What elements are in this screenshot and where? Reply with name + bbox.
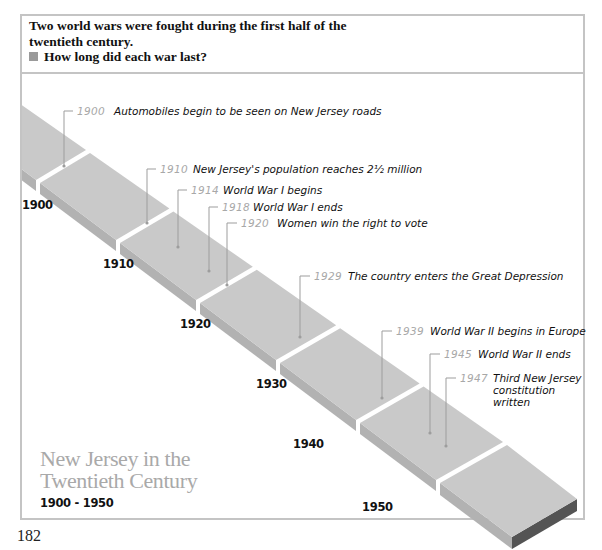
event-year: 1939 [396,325,424,337]
page-number: 182 [17,527,41,545]
timeline-range: 1900 - 1950 [40,496,114,510]
event-year: 1920 [241,217,269,229]
event-text: World War II begins in Europe [430,325,586,337]
decade-label-1920: 1920 [180,317,211,331]
timeline-title-line1: New Jersey in the [40,448,197,470]
event-text: Women win the right to vote [277,217,428,229]
timeline-title-line2: Twentieth Century [40,470,197,492]
event-text-line: constitution [493,384,582,396]
event-year: 1918 [222,201,250,213]
decade-label-1930: 1930 [256,377,287,391]
event-text: World War I begins [223,184,322,196]
decade-label-1950: 1950 [362,500,393,514]
event-text-line: written [493,396,582,408]
event-year: 1910 [160,163,188,175]
timeline-title: New Jersey in the Twentieth Century [40,448,197,492]
event-year: 1945 [444,348,472,360]
decade-label-1940: 1940 [293,437,324,451]
event-year: 1947 [460,372,488,384]
decade-label-1900: 1900 [22,198,53,212]
event-text: The country enters the Great Depression [348,270,563,282]
event-text: World War II ends [478,348,571,360]
event-text: New Jersey's population reaches 2½ milli… [193,163,422,175]
event-text: Third New Jersey constitution written [493,372,582,408]
event-year: 1900 [77,105,105,117]
event-year: 1914 [191,184,219,196]
event-text-line: Third New Jersey [493,372,582,384]
event-text: World War I ends [253,201,343,213]
decade-label-1910: 1910 [103,257,134,271]
event-text: Automobiles begin to be seen on New Jers… [114,105,382,117]
event-year: 1929 [314,270,342,282]
